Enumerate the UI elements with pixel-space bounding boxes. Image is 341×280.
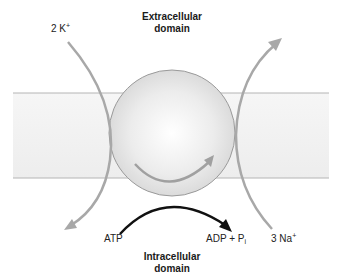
- extracellular-domain-label: Extracellular domain: [122, 11, 222, 35]
- potassium-label: 2 K+: [51, 23, 70, 35]
- phosphate-subscript: i: [244, 238, 246, 245]
- sodium-charge: +: [292, 232, 296, 239]
- adp-text: ADP + P: [206, 233, 244, 244]
- pump-protein-sphere: [109, 70, 235, 196]
- adp-label: ADP + Pi: [206, 233, 246, 245]
- sodium-label: 3 Na+: [271, 233, 296, 245]
- atp-label: ATP: [104, 233, 123, 245]
- potassium-text: 2 K: [51, 23, 66, 34]
- sodium-text: 3 Na: [271, 233, 292, 244]
- atp-hydrolysis-arrow-icon: [120, 207, 232, 234]
- intracellular-line2: domain: [122, 263, 222, 275]
- intracellular-line1: Intracellular: [122, 251, 222, 263]
- extracellular-line1: Extracellular: [122, 11, 222, 23]
- intracellular-domain-label: Intracellular domain: [122, 251, 222, 275]
- extracellular-line2: domain: [122, 23, 222, 35]
- atp-text: ATP: [104, 233, 123, 244]
- potassium-charge: +: [66, 22, 70, 29]
